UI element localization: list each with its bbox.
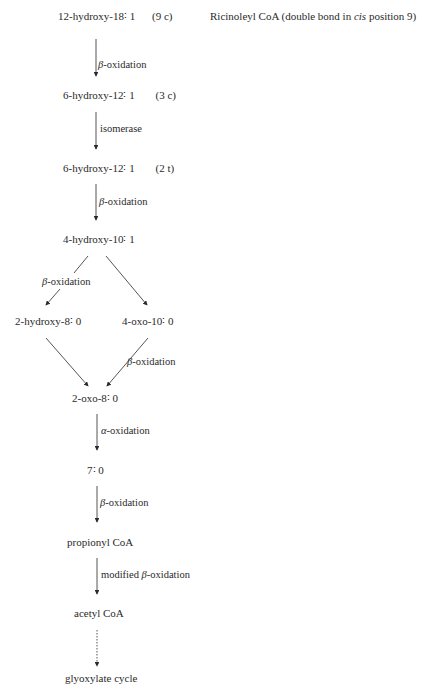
node-label: 6-hydroxy-12∶ 1: [63, 89, 135, 101]
step-text: -oxidation: [105, 497, 148, 508]
step-text: -oxidation: [103, 59, 146, 70]
node-acetyl-coa: acetyl CoA: [74, 607, 124, 619]
step-alpha-oxidation: α-oxidation: [101, 425, 150, 437]
node-label: 4-oxo-10∶ 0: [122, 315, 174, 327]
arrow-n4-branch-a-lower: [46, 289, 60, 305]
step-beta-oxidation-3: β-oxidation: [100, 497, 148, 509]
node-6-hydroxy-12-1-3c: 6-hydroxy-12∶ 1 (3 c): [63, 89, 176, 101]
node-config: (9 c): [152, 10, 172, 22]
step-prefix: modified: [101, 569, 142, 580]
step-beta-oxidation-1: β-oxidation: [98, 59, 146, 71]
step-isomerase: isomerase: [100, 123, 142, 135]
node-label: propionyl CoA: [67, 536, 133, 548]
ricinoleyl-note: Ricinoleyl CoA (double bond in cis posit…: [210, 10, 416, 22]
node-propionyl-coa: propionyl CoA: [67, 536, 133, 548]
node-12-hydroxy-18-1: 12-hydroxy-18∶ 1 (9 c): [58, 10, 172, 22]
node-2-oxo-8-0: 2-oxo-8∶ 0: [72, 392, 118, 404]
node-label: 2-oxo-8∶ 0: [72, 392, 118, 404]
node-label: 7∶ 0: [87, 464, 104, 476]
node-2-hydroxy-8-0: 2-hydroxy-8∶ 0: [15, 315, 81, 327]
node-label: glyoxylate cycle: [65, 672, 137, 684]
node-label: 6-hydroxy-12∶ 1: [63, 162, 135, 174]
step-text: -oxidation: [47, 276, 90, 287]
step-beta-oxidation-branch-a: β-oxidation: [42, 276, 90, 288]
node-config: (3 c): [156, 89, 176, 101]
node-label: 2-hydroxy-8∶ 0: [15, 315, 81, 327]
node-label: 4-hydroxy-10∶ 1: [63, 233, 135, 245]
node-label: acetyl CoA: [74, 607, 124, 619]
node-label: 12-hydroxy-18∶ 1: [58, 10, 135, 22]
note-text: Ricinoleyl CoA (double bond in: [210, 10, 354, 22]
step-modified-beta-oxidation: modified β-oxidation: [101, 569, 190, 581]
node-config: (2 t): [156, 162, 175, 174]
node-4-oxo-10-0: 4-oxo-10∶ 0: [122, 315, 174, 327]
note-text-end: position 9): [366, 10, 416, 22]
step-text: -oxidation: [107, 425, 150, 436]
arrow-n5a-n6: [46, 338, 88, 386]
pathway-arrows: [0, 0, 432, 689]
node-4-hydroxy-10-1: 4-hydroxy-10∶ 1: [63, 233, 135, 245]
note-italic: cis: [354, 10, 366, 22]
arrow-n4-branch-a-upper: [74, 256, 88, 273]
node-glyoxylate-cycle: glyoxylate cycle: [65, 672, 137, 684]
step-beta-oxidation-branch-b: β-oxidation: [127, 356, 175, 368]
step-text: isomerase: [100, 123, 142, 134]
step-text: -oxidation: [104, 196, 147, 207]
step-beta-oxidation-2: β-oxidation: [99, 196, 147, 208]
step-text: -oxidation: [132, 356, 175, 367]
node-7-0: 7∶ 0: [87, 464, 104, 476]
arrow-n4-n5b: [106, 256, 147, 305]
node-6-hydroxy-12-1-2t: 6-hydroxy-12∶ 1 (2 t): [63, 162, 174, 174]
step-text: -oxidation: [147, 569, 190, 580]
